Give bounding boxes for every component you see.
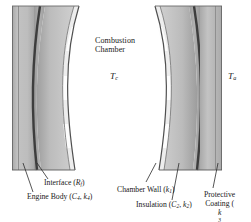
protective-coating-callout-label: Protective Coating (k3) bbox=[204, 190, 235, 222]
engine-body-callout-label: Engine Body (C4, k4) bbox=[27, 192, 92, 201]
insulation-callout-label: Insulation (C2, k2) bbox=[136, 200, 192, 209]
right-engine-body-layer bbox=[200, 6, 222, 170]
ambient-temperature-label: Ta bbox=[228, 71, 236, 81]
insulation-text-suffix: ) bbox=[189, 200, 192, 209]
combustion-chamber-label-line1: Combustion bbox=[95, 36, 135, 45]
chamber-wall-text-suffix: ) bbox=[172, 185, 175, 194]
combustion-chamber-label: Combustion Chamber bbox=[95, 36, 135, 54]
left-engine-body-layer bbox=[12, 6, 34, 170]
temperature-subscript-tc: c bbox=[115, 74, 118, 81]
protective-coating-symbol: k bbox=[218, 208, 221, 217]
interface-callout-label: Interface (Rf) bbox=[44, 178, 85, 187]
insulation-text-prefix: Insulation ( bbox=[136, 200, 171, 209]
chamber-wall-callout-label: Chamber Wall (k1) bbox=[117, 185, 175, 194]
right-wall-assembly bbox=[155, 6, 222, 170]
engine-body-text-suffix: ) bbox=[90, 192, 93, 201]
combustion-chamber-label-line2: Chamber bbox=[95, 45, 135, 54]
chamber-wall-text-prefix: Chamber Wall ( bbox=[117, 185, 166, 194]
left-wall-assembly bbox=[12, 6, 79, 170]
leader-line-chamber-wall bbox=[146, 163, 156, 182]
interface-text-suffix: ) bbox=[82, 178, 85, 187]
protective-coating-line2: Coating (k3) bbox=[204, 199, 235, 222]
protective-coating-text-prefix: Coating ( bbox=[204, 199, 235, 208]
protective-coating-line1: Protective bbox=[204, 190, 235, 199]
temperature-subscript-ta: a bbox=[233, 74, 236, 81]
combustion-gas-temperature-label: Tc bbox=[110, 71, 118, 81]
protective-coating-subscript: 3 bbox=[204, 217, 235, 222]
engine-body-text-prefix: Engine Body ( bbox=[27, 192, 72, 201]
combustion-chamber-wall-diagram: Combustion Chamber Tc Ta Interface (Rf) … bbox=[0, 0, 251, 222]
interface-text-prefix: Interface ( bbox=[44, 178, 76, 187]
